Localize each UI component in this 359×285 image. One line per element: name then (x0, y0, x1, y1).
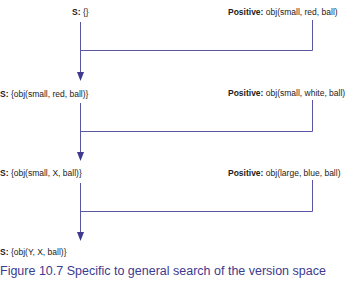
s-key: S: (0, 168, 9, 178)
s-set-label-1: S: {} (72, 7, 89, 17)
s-set-label-4: S: {obj(Y, X, ball)} (0, 247, 66, 257)
positive-key: Positive: (228, 168, 263, 178)
diagram-lines (0, 0, 359, 285)
s-key: S: (72, 7, 81, 17)
positive-example-label-2: Positive: obj(small, white, ball) (228, 88, 345, 98)
s-key: S: (0, 89, 9, 99)
positive-example-label-3: Positive: obj(large, blue, ball) (228, 168, 340, 178)
s-key: S: (0, 247, 9, 257)
arrow-head-icon (77, 72, 84, 81)
positive-key: Positive: (228, 7, 263, 17)
positive-value: obj(small, red, ball) (266, 7, 338, 17)
arrow-head-icon (77, 152, 84, 161)
positive-key: Positive: (228, 88, 263, 98)
figure-caption: Figure 10.7 Specific to general search o… (0, 264, 326, 278)
s-set-label-2: S: {obj(small, red, ball)} (0, 89, 88, 99)
s-value: {obj(small, X, ball)} (11, 168, 82, 178)
arrow-head-icon (77, 232, 84, 241)
positive-example-label-1: Positive: obj(small, red, ball) (228, 7, 338, 17)
s-value: {obj(Y, X, ball)} (11, 247, 67, 257)
s-value: {} (83, 7, 89, 17)
s-set-label-3: S: {obj(small, X, ball)} (0, 168, 82, 178)
s-value: {obj(small, red, ball)} (11, 89, 88, 99)
positive-value: obj(large, blue, ball) (266, 168, 341, 178)
positive-value: obj(small, white, ball) (266, 88, 345, 98)
